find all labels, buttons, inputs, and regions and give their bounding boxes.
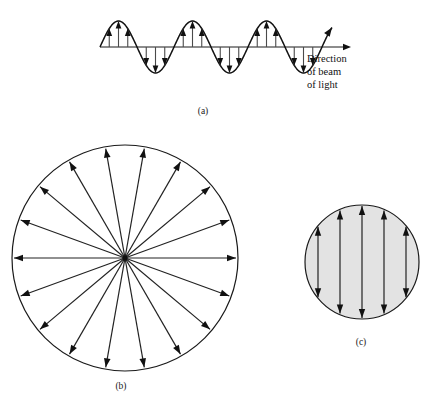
radial-arrow-17	[125, 258, 229, 296]
radial-vibration-arrows	[14, 149, 236, 368]
direction-label-line-2: of light	[307, 79, 338, 90]
radial-arrow-8	[21, 220, 125, 258]
radial-arrow-7	[40, 187, 125, 258]
panel-b-caption: (b)	[115, 381, 126, 392]
wave-end-arrowhead	[324, 27, 332, 36]
radial-arrow-2	[125, 187, 210, 258]
radial-arrow-1	[125, 220, 229, 258]
direction-label-line-1: of beam	[307, 66, 341, 77]
panel-a-caption: (a)	[198, 106, 209, 117]
direction-label-line-0: Direction	[307, 53, 347, 64]
radial-arrow-10	[21, 258, 125, 296]
physics-figure-svg: Directionof beamof light (a) (b) (c)	[0, 0, 442, 400]
axis-arrowhead	[343, 44, 351, 50]
panel-a-group: Directionof beamof light (a)	[100, 21, 351, 117]
figure-container: Directionof beamof light (a) (b) (c)	[0, 0, 442, 400]
radial-arrow-16	[125, 258, 210, 329]
panel-b-group: (b)	[12, 145, 238, 392]
direction-of-beam-label: Directionof beamof light	[307, 53, 347, 90]
radial-arrow-11	[40, 258, 125, 329]
panel-c-caption: (c)	[356, 337, 367, 348]
panel-c-group: (c)	[305, 205, 419, 348]
